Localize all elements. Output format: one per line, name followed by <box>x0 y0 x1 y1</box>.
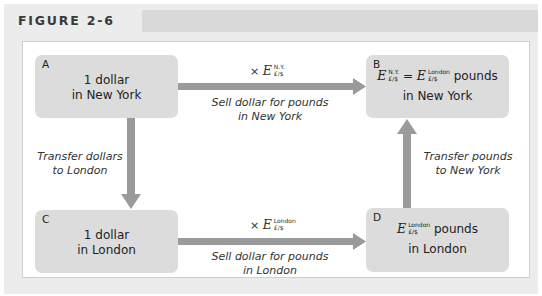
label-transfer-dollars: Transfer dollars to London <box>30 150 130 178</box>
exchange-rate-symbol: E <box>377 68 386 83</box>
box-c-dollar-london: C 1 dollar in London <box>35 210 178 273</box>
box-a-line2: in New York <box>35 88 178 103</box>
box-d-formula: ELondon£/$ pounds <box>366 221 509 237</box>
exchange-rate-symbol: E <box>263 217 272 232</box>
label-sell-dollar-london: Sell dollar for pounds in London <box>195 250 345 278</box>
box-c-line2: in London <box>35 243 178 258</box>
arrow-c-to-d <box>178 233 366 250</box>
label-line1: Transfer pounds <box>418 150 518 164</box>
exchange-rate-symbol: E <box>417 68 426 83</box>
label-line2: to London <box>30 164 130 178</box>
arrow-a-to-b <box>178 78 366 95</box>
subscript-currency: £/$ <box>274 70 285 77</box>
times-sign: × <box>250 219 259 232</box>
label-line2: to New York <box>418 164 518 178</box>
label-line1: Sell dollar for pounds <box>195 250 345 264</box>
box-letter: C <box>42 213 49 225</box>
equals-sign: = <box>403 69 413 83</box>
label-sell-dollar-ny: Sell dollar for pounds in New York <box>195 96 345 124</box>
box-b-pounds-new-york: B EN.Y.£/$ = ELondon£/$ pounds in New Yo… <box>366 55 509 118</box>
label-line1: Transfer dollars <box>30 150 130 164</box>
label-transfer-pounds: Transfer pounds to New York <box>418 150 518 178</box>
exchange-rate-symbol: E <box>397 221 406 236</box>
box-b-formula: EN.Y.£/$ = ELondon£/$ pounds <box>366 68 509 84</box>
box-b-line2: in New York <box>366 89 509 104</box>
superscript-london: London <box>408 221 430 228</box>
box-d-pounds-london: D ELondon£/$ pounds in London <box>366 208 509 272</box>
rate-london-multiplier: × ELondon£/$ <box>250 217 296 233</box>
box-c-line1: 1 dollar <box>35 228 178 243</box>
superscript-london: London <box>274 217 296 224</box>
arrow-d-to-b <box>397 119 417 208</box>
subscript-currency: £/$ <box>428 75 450 82</box>
superscript-ny: N.Y. <box>274 63 285 70</box>
superscript-london: London <box>428 68 450 75</box>
subscript-currency: £/$ <box>408 228 430 235</box>
label-line2: in New York <box>195 110 345 124</box>
label-line2: in London <box>195 264 345 278</box>
superscript-ny: N.Y. <box>388 68 399 75</box>
rate-ny-multiplier: × EN.Y.£/$ <box>250 63 285 79</box>
subscript-currency: £/$ <box>274 224 296 231</box>
box-a-line1: 1 dollar <box>35 73 178 88</box>
box-a-dollar-new-york: A 1 dollar in New York <box>35 55 178 118</box>
unit-label: pounds <box>434 222 478 236</box>
unit-label: pounds <box>454 69 498 83</box>
label-line1: Sell dollar for pounds <box>195 96 345 110</box>
times-sign: × <box>250 65 259 78</box>
exchange-rate-symbol: E <box>263 63 272 78</box>
box-letter: A <box>42 58 49 70</box>
box-d-line2: in London <box>366 242 509 257</box>
subscript-currency: £/$ <box>388 75 399 82</box>
